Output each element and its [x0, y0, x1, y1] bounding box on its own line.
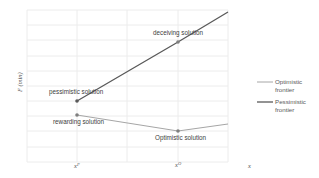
x-tick-xp: xP [73, 162, 80, 170]
chart: pessimistic solution rewarding solution … [0, 0, 319, 178]
x-tick-xo: xO [174, 161, 182, 169]
legend-optimistic-label-1: Optimistic [275, 78, 302, 85]
legend-pessimistic-label-2: frontier [275, 106, 294, 113]
pessimistic-solution-marker [75, 99, 79, 103]
optimistic-solution-marker [176, 129, 180, 133]
annotation-rewarding: rewarding solution [53, 118, 105, 126]
deceiving-solution-marker [176, 40, 180, 44]
legend: Optimistic frontier Pessimistic frontier [257, 78, 306, 113]
x-axis-label: x [247, 162, 251, 169]
legend-pessimistic-label-1: Pessimistic [275, 98, 306, 105]
annotation-deceiving: deceiving solution [153, 29, 204, 37]
rewarding-solution-marker [75, 113, 79, 117]
annotation-pessimistic: pessimistic solution [49, 88, 104, 96]
annotation-optimistic: Optimistic solution [155, 134, 207, 142]
y-axis-label: F (min) [16, 72, 24, 93]
legend-optimistic-label-2: frontier [275, 86, 294, 93]
